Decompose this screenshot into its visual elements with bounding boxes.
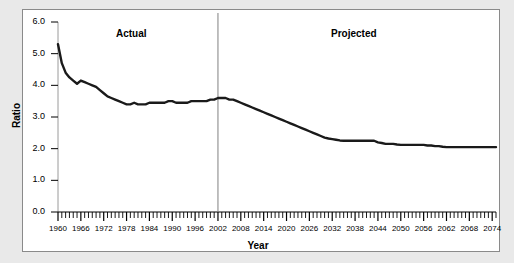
- y-tick-label: 5.0: [19, 48, 45, 58]
- y-tick-label: 4.0: [19, 79, 45, 89]
- chart-panel: [22, 9, 500, 252]
- y-tick-label: 6.0: [19, 16, 45, 26]
- projected-region-label: Projected: [331, 28, 377, 39]
- y-tick-label: 1.0: [19, 174, 45, 184]
- y-tick-label: 2.0: [19, 143, 45, 153]
- actual-region-label: Actual: [116, 28, 147, 39]
- x-axis-title: Year: [236, 240, 280, 251]
- y-tick-label: 3.0: [19, 111, 45, 121]
- chart-figure: Ratio Year Actual Projected 6.05.04.03.0…: [0, 0, 514, 263]
- y-tick-label: 0.0: [19, 206, 45, 216]
- x-tick-label: 2074: [479, 224, 505, 233]
